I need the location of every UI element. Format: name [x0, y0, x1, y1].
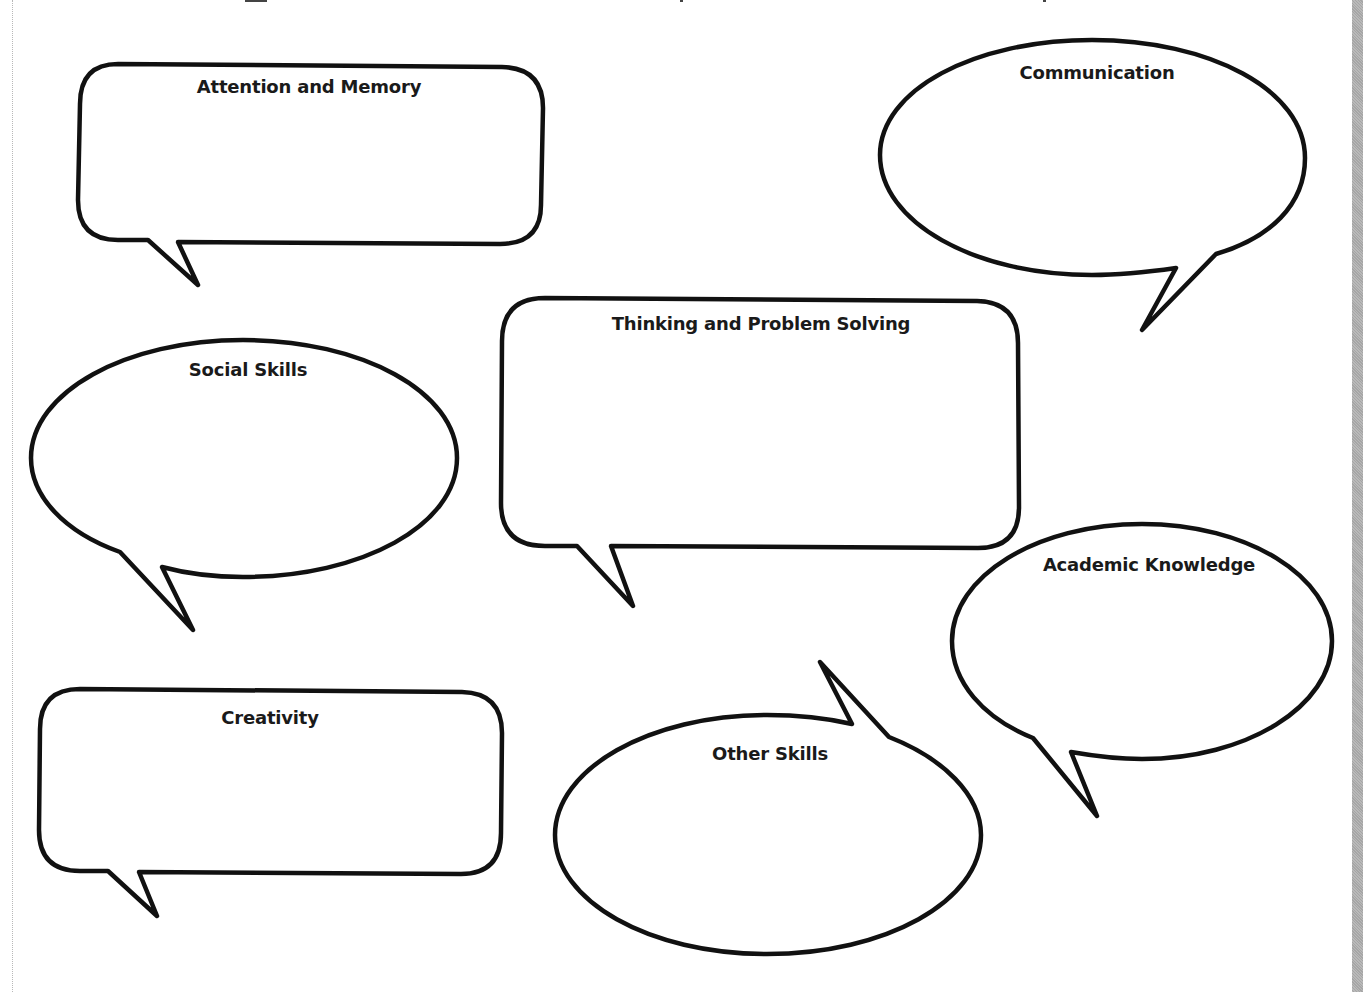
- write-area-communication[interactable]: [920, 90, 1270, 250]
- write-area-academic-knowledge[interactable]: [985, 585, 1305, 735]
- write-area-other-skills[interactable]: [590, 772, 950, 932]
- write-area-thinking-problem-solving[interactable]: [520, 343, 1000, 533]
- write-area-attention-memory[interactable]: [95, 105, 525, 230]
- bubble-label-social-skills: Social Skills: [189, 359, 307, 380]
- bubble-label-attention-memory: Attention and Memory: [197, 76, 421, 97]
- bubble-label-thinking-problem-solving: Thinking and Problem Solving: [612, 313, 911, 334]
- write-area-social-skills[interactable]: [65, 390, 425, 555]
- bubble-label-other-skills: Other Skills: [712, 743, 828, 764]
- bubble-label-academic-knowledge: Academic Knowledge: [1043, 554, 1255, 575]
- write-area-creativity[interactable]: [58, 738, 483, 858]
- bubble-label-creativity: Creativity: [221, 707, 318, 728]
- bubble-label-communication: Communication: [1019, 62, 1174, 83]
